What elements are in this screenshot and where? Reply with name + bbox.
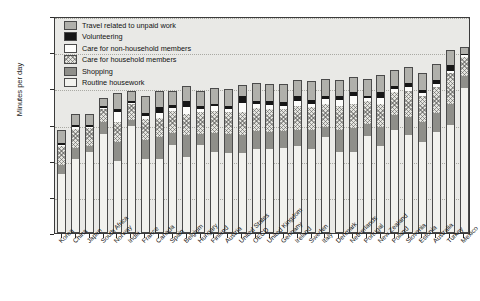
bar-belgium[interactable] [182, 86, 191, 233]
legend-label: Care for non-household members [82, 44, 191, 53]
bar-segment [238, 153, 247, 233]
bar-segment [252, 131, 261, 149]
bar-france[interactable] [141, 96, 150, 233]
bar-segment [99, 122, 108, 134]
bar-segment [307, 81, 316, 100]
bar-segment [404, 67, 413, 83]
legend-item[interactable]: Volunteering [64, 32, 191, 43]
bar-segment [390, 92, 399, 115]
bar-segment [363, 79, 372, 96]
bar-segment [293, 80, 302, 96]
bar-segment [196, 134, 205, 145]
bar-segment [182, 114, 191, 134]
legend-item[interactable]: Travel related to unpaid work [64, 20, 191, 31]
bar-segment [113, 122, 122, 142]
bar-segment [71, 114, 80, 126]
bar-netherlands[interactable] [349, 77, 358, 233]
bar-segment [307, 130, 316, 149]
legend-item[interactable]: Care for household members [64, 55, 191, 66]
bar-mexico[interactable] [460, 47, 469, 233]
legend-item[interactable]: Routine housework [64, 78, 191, 89]
bar-spain[interactable] [168, 91, 177, 233]
bar-denmark[interactable] [335, 80, 344, 233]
bar-segment [335, 152, 344, 233]
bar-new-zealand[interactable] [376, 75, 385, 233]
bar-segment [321, 137, 330, 233]
bar-segment [85, 114, 94, 124]
bar-segment [376, 75, 385, 92]
bar-segment [71, 148, 80, 158]
bar-japan[interactable] [85, 114, 94, 233]
bar-segment [265, 132, 274, 149]
bar-china[interactable] [71, 114, 80, 233]
bar-estonia[interactable] [418, 73, 427, 233]
bar-segment [321, 127, 330, 137]
bar-italy[interactable] [321, 79, 330, 233]
bar-oecd[interactable] [252, 83, 261, 233]
bar-segment [141, 140, 150, 158]
legend-label: Volunteering [82, 32, 123, 41]
bar-segment [335, 80, 344, 95]
bar-segment [210, 152, 219, 233]
bar-segment [224, 89, 233, 106]
bar-segment [279, 131, 288, 148]
bar-south-africa[interactable] [99, 98, 108, 233]
bar-segment [446, 73, 455, 104]
bar-finland[interactable] [210, 88, 219, 233]
bar-united-kingdom[interactable] [265, 84, 274, 233]
bar-segment [182, 107, 191, 114]
bar-germany[interactable] [279, 84, 288, 233]
bar-australia[interactable] [432, 64, 441, 233]
bar-segment [335, 106, 344, 129]
bar-segment [113, 142, 122, 162]
bar-segment [279, 109, 288, 131]
bar-segment [265, 109, 274, 133]
bar-sweden[interactable] [307, 81, 316, 233]
bar-segment [155, 159, 164, 234]
bar-segment [127, 91, 136, 101]
bar-segment [113, 93, 122, 109]
bar-segment [376, 127, 385, 147]
legend-item[interactable]: Shopping [64, 66, 191, 77]
bar-segment [238, 103, 247, 112]
legend-item[interactable]: Care for non-household members [64, 43, 191, 54]
bar-poland[interactable] [390, 70, 399, 233]
bar-segment [141, 96, 150, 113]
bar-norway[interactable] [113, 93, 122, 233]
bar-segment [196, 112, 205, 134]
bar-segment [460, 76, 469, 88]
bar-segment [224, 134, 233, 154]
bar-segment [349, 128, 358, 152]
bar-korea[interactable] [57, 130, 66, 233]
bar-segment [238, 112, 247, 135]
bar-turkey[interactable] [446, 50, 455, 233]
bar-segment [363, 101, 372, 123]
bar-segment [210, 88, 219, 103]
bar-segment [265, 84, 274, 101]
bar-united-states[interactable] [238, 85, 247, 233]
bar-segment [376, 104, 385, 127]
bar-segment [432, 87, 441, 113]
bar-canada[interactable] [155, 91, 164, 233]
bar-segment [238, 85, 247, 97]
bar-segment [127, 104, 136, 120]
legend-swatch-icon [64, 44, 77, 53]
bar-segment [418, 142, 427, 233]
bar-slovenia[interactable] [404, 67, 413, 233]
bar-segment [321, 79, 330, 96]
bar-portugal[interactable] [363, 79, 372, 233]
bar-segment [390, 70, 399, 86]
bar-segment [404, 117, 413, 135]
legend-label: Shopping [82, 67, 113, 76]
bar-segment [335, 130, 344, 152]
bar-segment [404, 91, 413, 117]
bar-segment [460, 88, 469, 233]
bar-segment [293, 106, 302, 130]
bar-segment [57, 146, 66, 165]
bar-hungary[interactable] [196, 91, 205, 233]
bar-india[interactable] [127, 91, 136, 233]
gridline [55, 18, 469, 19]
bar-segment [71, 129, 80, 149]
bar-austria[interactable] [224, 89, 233, 233]
